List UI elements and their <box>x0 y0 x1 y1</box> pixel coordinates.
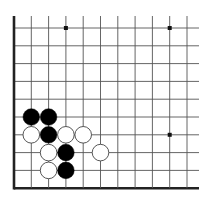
white-stone-icon <box>58 127 75 144</box>
black-stone-icon <box>40 109 57 126</box>
star-point-icon <box>168 26 172 30</box>
white-stone-icon <box>23 127 40 144</box>
white-stone-icon <box>40 162 57 179</box>
black-stone-icon <box>58 162 75 179</box>
go-board <box>0 0 210 207</box>
white-stone-icon <box>92 144 109 161</box>
white-stone-icon <box>40 144 57 161</box>
black-stone-icon <box>58 144 75 161</box>
star-point-icon <box>64 26 68 30</box>
white-stone-icon <box>75 127 92 144</box>
black-stone-icon <box>23 109 40 126</box>
board-grid <box>14 16 199 190</box>
star-point-icon <box>168 133 172 137</box>
black-stone-icon <box>40 127 57 144</box>
